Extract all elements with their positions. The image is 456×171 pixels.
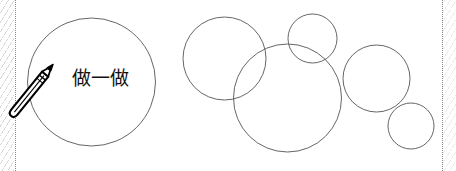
overlapping-circles-group [183, 14, 434, 152]
badge-label: 做一做 [72, 66, 129, 90]
circle-top-middle [288, 14, 337, 63]
circle-center-large [234, 44, 342, 152]
page-canvas: 做一做 [0, 0, 456, 171]
circle-upper-left [183, 17, 266, 100]
artwork-layer [0, 0, 456, 171]
circle-bottom-right [388, 103, 434, 149]
circle-right-medium [343, 45, 410, 112]
